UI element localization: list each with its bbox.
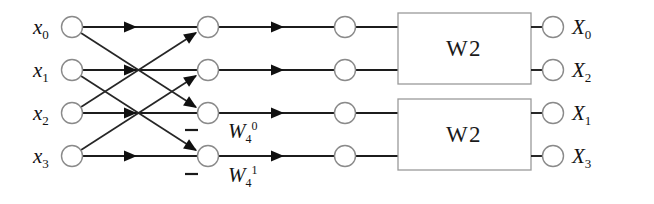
input-label-x3: x3 [32,144,49,171]
stage2-nodes [335,17,356,167]
stage1-node-row3 [198,146,219,167]
output-node-X1 [543,103,564,124]
arrowhead-x1-s1r1 [124,65,137,76]
box-input-wires [356,27,398,156]
stage2-node-row0 [335,17,356,38]
input-nodes [62,17,83,167]
arrowhead-s1r1-s2r1 [271,65,284,76]
input-node-x1 [62,60,83,81]
output-label-X3: X3 [571,144,591,171]
arrowhead-s1r2-s2r2 [271,108,284,119]
output-labels: X0 X2 X1 X3 [571,15,591,171]
output-nodes [543,17,564,167]
arrowhead-s1r3-s2r3 [271,151,284,162]
input-node-x0 [62,17,83,38]
output-label-X2: X2 [571,58,591,85]
input-node-x3 [62,146,83,167]
output-node-X0 [543,17,564,38]
output-label-X0: X0 [571,15,591,42]
input-label-x1: x1 [32,58,49,85]
output-label-X1: X1 [571,101,591,128]
stage1-nodes [198,17,219,167]
twiddle-label-W41: W41 [228,163,258,190]
twiddle-label-W40: W40 [228,119,258,146]
arrowhead-x3-s1r3 [124,151,137,162]
stage1-node-row0 [198,17,219,38]
w2-box-top: W2 [398,13,531,84]
stage2-node-row2 [335,103,356,124]
minus-signs [185,130,198,174]
stage1-node-row1 [198,60,219,81]
fft-butterfly-diagram: W2 W2 [0,0,654,204]
w2-box-bottom-label: W2 [446,122,482,147]
stage2-node-row1 [335,60,356,81]
box-output-wires [531,27,543,156]
stage2-node-row3 [335,146,356,167]
arrowhead-x2-s1r2 [124,108,137,119]
stage1-cross-edges [81,27,200,155]
w2-box-top-label: W2 [446,36,482,61]
arrowhead-x0-s1r0 [124,22,137,33]
input-label-x0: x0 [32,15,49,42]
stage1-node-row2 [198,103,219,124]
w2-box-bottom: W2 [398,99,531,170]
fft-signal-flow-svg: W2 W2 [0,0,654,204]
arrowhead-s1r0-s2r0 [271,22,284,33]
output-node-X3 [543,146,564,167]
output-node-X2 [543,60,564,81]
input-node-x2 [62,103,83,124]
input-label-x2: x2 [32,101,49,128]
twiddle-labels: W40 W41 [228,119,258,190]
input-labels: x0 x1 x2 x3 [32,15,49,171]
